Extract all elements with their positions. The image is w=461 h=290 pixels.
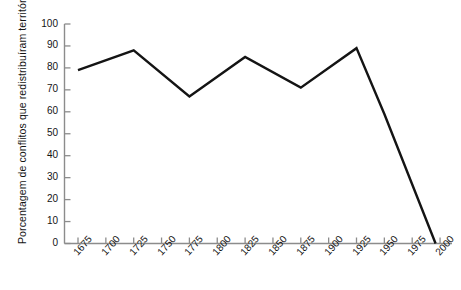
y-tick-label: 70	[28, 83, 58, 94]
y-tick-label: 30	[28, 171, 58, 182]
y-tick-label: 10	[28, 215, 58, 226]
data-series-line	[78, 48, 436, 243]
y-tick-label: 90	[28, 39, 58, 50]
y-tick-label: 40	[28, 149, 58, 160]
axis-lines	[65, 24, 453, 244]
y-tick-label: 50	[28, 127, 58, 138]
y-tick-label: 100	[28, 18, 58, 29]
y-tick-label: 20	[28, 193, 58, 204]
y-tick-label: 80	[28, 61, 58, 72]
y-tick-label: 0	[28, 237, 58, 248]
y-tick-label: 60	[28, 105, 58, 116]
y-axis-ticks	[65, 24, 71, 244]
chart-container: Porcentagem de conflitos que redistribuí…	[0, 0, 461, 290]
